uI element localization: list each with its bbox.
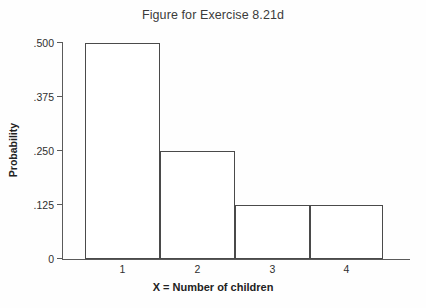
x-tick-label: 1 <box>103 263 143 275</box>
bar-4 <box>310 205 383 259</box>
x-tick-label: 2 <box>178 263 218 275</box>
y-tick-label: 0 <box>14 253 54 265</box>
y-axis-spine <box>62 42 63 260</box>
plot-area: .500.375.250.1250 1234 <box>0 0 426 308</box>
y-axis-title: Probability <box>7 123 19 177</box>
bar-1 <box>85 43 160 259</box>
figure-container: Figure for Exercise 8.21d .500.375.250.1… <box>0 0 426 308</box>
y-tick-label: .250 <box>14 145 54 157</box>
bar-2 <box>160 151 235 259</box>
y-tick-mark <box>57 204 62 205</box>
y-tick-label: .500 <box>14 37 54 49</box>
y-tick-mark <box>57 150 62 151</box>
y-tick-label: .375 <box>14 91 54 103</box>
y-tick-label: .125 <box>14 199 54 211</box>
y-tick-mark <box>57 42 62 43</box>
y-tick-mark <box>57 96 62 97</box>
bar-3 <box>235 205 310 259</box>
y-tick-mark <box>57 258 62 259</box>
x-axis-title: X = Number of children <box>0 281 426 293</box>
x-tick-label: 4 <box>327 263 367 275</box>
x-tick-label: 3 <box>253 263 293 275</box>
